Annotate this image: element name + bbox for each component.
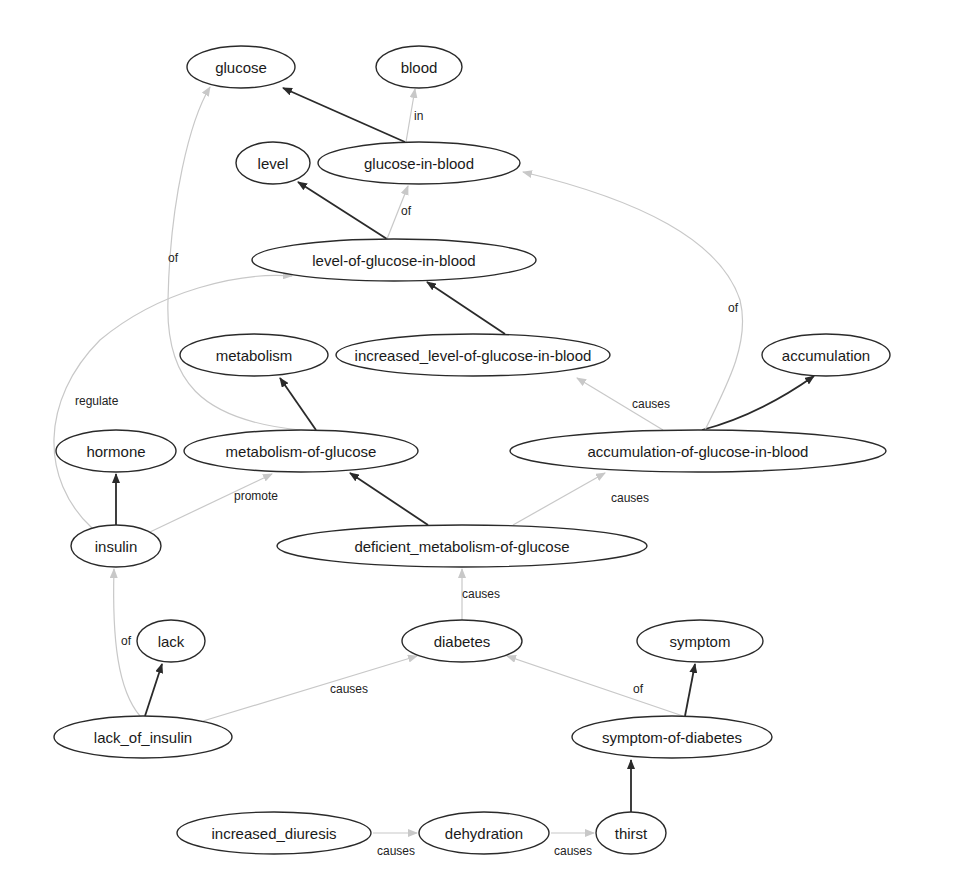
node-label: accumulation-of-glucose-in-blood: [588, 443, 809, 460]
edge-label: causes: [377, 844, 415, 858]
node-label: deficient_metabolism-of-glucose: [354, 538, 569, 555]
edge-symptom-of-diabetes-to-symptom: [685, 664, 695, 716]
node-lack[interactable]: lack: [137, 620, 205, 662]
node-label: level-of-glucose-in-blood: [312, 252, 475, 269]
edge-deficient_metabolism-of-glucose-to-metabolism-of-glucose: [350, 473, 428, 525]
edge-label: of: [168, 251, 179, 265]
edge-dehydration-to-thirst: causes: [551, 833, 594, 858]
node-label: thirst: [615, 825, 648, 842]
node-increased_level-of-glucose-in-blood[interactable]: increased_level-of-glucose-in-blood: [336, 334, 610, 376]
edge-label: causes: [462, 587, 500, 601]
node-label: increased_level-of-glucose-in-blood: [355, 347, 592, 364]
edge-line: [298, 182, 387, 239]
node-label: symptom-of-diabetes: [602, 729, 742, 746]
node-label: accumulation: [782, 347, 870, 364]
node-accumulation-of-glucose-in-blood[interactable]: accumulation-of-glucose-in-blood: [510, 430, 886, 472]
edge-label: causes: [632, 397, 670, 411]
node-symptom[interactable]: symptom: [637, 620, 763, 662]
edge-lack_of_insulin-to-lack: [145, 664, 162, 716]
edge-label: causes: [330, 682, 368, 696]
edge-lack_of_insulin-to-diabetes: causes: [203, 656, 417, 721]
node-label: symptom: [670, 633, 731, 650]
edge-increased_level-of-glucose-in-blood-to-level-of-glucose-in-blood: [427, 282, 505, 334]
edge-diabetes-to-deficient_metabolism-of-glucose: causes: [462, 569, 500, 620]
edge-label: causes: [554, 844, 592, 858]
node-label: diabetes: [434, 633, 491, 650]
edge-line: [507, 656, 683, 716]
node-symptom-of-diabetes[interactable]: symptom-of-diabetes: [572, 716, 772, 758]
edge-deficient_metabolism-of-glucose-to-accumulation-of-glucose-in-blood: causes: [513, 473, 649, 525]
edge-lack_of_insulin-to-insulin: of: [114, 569, 140, 716]
node-label: level: [258, 155, 289, 172]
node-insulin[interactable]: insulin: [71, 525, 161, 567]
edge-label: of: [633, 682, 644, 696]
node-hormone[interactable]: hormone: [56, 430, 176, 472]
node-level[interactable]: level: [236, 142, 310, 184]
edge-line: [280, 378, 316, 430]
node-deficient_metabolism-of-glucose[interactable]: deficient_metabolism-of-glucose: [277, 525, 647, 567]
edge-accumulation-of-glucose-in-blood-to-increased_level-of-glucose-in-blood: causes: [577, 378, 670, 430]
node-label: glucose-in-blood: [364, 155, 474, 172]
edge-level-of-glucose-in-blood-to-level: [298, 182, 387, 239]
concept-graph: inofofcausesofpromoteregulatecausescause…: [0, 0, 967, 879]
node-label: hormone: [86, 443, 145, 460]
edge-accumulation-of-glucose-in-blood-to-glucose-in-blood: of: [523, 172, 743, 430]
node-level-of-glucose-in-blood[interactable]: level-of-glucose-in-blood: [252, 239, 536, 281]
node-glucose[interactable]: glucose: [187, 46, 295, 88]
node-label: glucose: [215, 59, 267, 76]
edge-glucose-in-blood-to-glucose: [283, 88, 405, 142]
node-label: lack_of_insulin: [94, 729, 192, 746]
edge-label: promote: [234, 489, 278, 503]
node-glucose-in-blood[interactable]: glucose-in-blood: [318, 142, 520, 184]
edge-line: [350, 473, 428, 525]
edge-label: of: [121, 634, 132, 648]
node-dehydration[interactable]: dehydration: [419, 812, 549, 854]
node-increased_diuresis[interactable]: increased_diuresis: [177, 812, 371, 854]
edge-label: regulate: [75, 394, 119, 408]
edge-line: [150, 474, 272, 532]
edge-line: [685, 664, 695, 716]
edge-metabolism-of-glucose-to-metabolism: [280, 378, 316, 430]
node-label: insulin: [95, 538, 138, 555]
edge-label: causes: [611, 491, 649, 505]
nodes-layer: glucosebloodlevelglucose-in-bloodlevel-o…: [54, 46, 890, 854]
node-label: blood: [401, 59, 438, 76]
edge-insulin-to-metabolism-of-glucose: promote: [150, 474, 278, 532]
node-label: lack: [158, 633, 185, 650]
edge-line: [513, 473, 605, 525]
node-label: dehydration: [445, 825, 523, 842]
edge-line: [427, 282, 505, 334]
edge-label: of: [728, 301, 739, 315]
node-label: metabolism-of-glucose: [226, 443, 377, 460]
edge-glucose-in-blood-to-blood: in: [406, 89, 423, 142]
node-label: metabolism: [216, 347, 293, 364]
edge-increased_diuresis-to-dehydration: causes: [373, 833, 417, 858]
edge-label: in: [414, 109, 423, 123]
node-accumulation[interactable]: accumulation: [762, 334, 890, 376]
node-label: increased_diuresis: [211, 825, 336, 842]
edge-line: [283, 88, 405, 142]
node-lack_of_insulin[interactable]: lack_of_insulin: [54, 716, 232, 758]
edge-label: of: [401, 204, 412, 218]
edge-line: [523, 172, 743, 430]
edge-symptom-of-diabetes-to-diabetes: of: [507, 656, 683, 716]
node-diabetes[interactable]: diabetes: [402, 620, 522, 662]
node-blood[interactable]: blood: [376, 46, 462, 88]
edge-line: [145, 664, 162, 716]
edge-line: [203, 656, 417, 721]
edge-level-of-glucose-in-blood-to-glucose-in-blood: of: [387, 186, 412, 239]
node-metabolism-of-glucose[interactable]: metabolism-of-glucose: [184, 430, 418, 472]
node-metabolism[interactable]: metabolism: [180, 334, 328, 376]
node-thirst[interactable]: thirst: [596, 812, 666, 854]
